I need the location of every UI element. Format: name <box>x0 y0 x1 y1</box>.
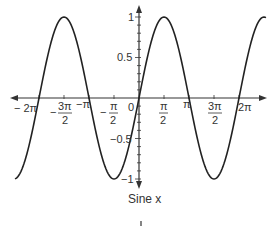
x-tick-label-3pi2-den: 2 <box>212 114 218 126</box>
x-tick-label-3pi2-num: 3π <box>208 100 222 112</box>
x-tick-label-2pi: 2π <box>238 101 252 113</box>
y-tick-label-neg-1: −1 <box>121 173 134 185</box>
x-tick-label-neg-pi2-sign: − <box>100 106 106 118</box>
x-tick-label-neg-3pi2-den: 2 <box>62 114 68 126</box>
x-tick-label-zero: 0 <box>128 101 134 113</box>
y-tick-label-0-5: 0.5 <box>117 51 132 63</box>
x-tick-label-pi2-num: π <box>160 100 168 112</box>
sine-chart: − 2π − 3π 2 −π − π 2 0 π 2 π 3π 2 2π 1 0… <box>0 0 268 226</box>
x-axis-left-arrow-icon <box>10 95 18 101</box>
y-axis-bottom-arrow-icon <box>136 181 142 189</box>
x-tick-label-neg-pi: −π <box>76 98 90 110</box>
x-tick-label-pi: π <box>183 98 191 110</box>
y-tick-label-1: 1 <box>128 11 134 23</box>
chart-caption: Sine x <box>128 192 161 206</box>
x-tick-label-neg-pi2-den: 2 <box>110 114 116 126</box>
y-axis-top-arrow-icon <box>136 5 142 13</box>
x-tick-label-neg-3pi2-sign: − <box>50 106 56 118</box>
x-tick-label-neg-3pi2-num: 3π <box>58 100 72 112</box>
x-tick-label-neg-pi2-num: π <box>110 100 118 112</box>
x-tick-label-neg-2pi: − 2π <box>14 102 38 114</box>
y-tick-label-neg-0-5: −0.5 <box>110 133 132 145</box>
x-axis-right-arrow-icon <box>259 95 267 101</box>
x-tick-label-pi2-den: 2 <box>160 114 166 126</box>
